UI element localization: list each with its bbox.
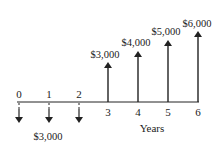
period-label-5: 5 — [165, 106, 171, 118]
inflow-label-3: $3,000 — [91, 49, 120, 60]
inflow-label-5: $5,000 — [152, 26, 181, 37]
period-label-6: 6 — [195, 106, 201, 118]
axis-label-years: Years — [140, 122, 165, 134]
outflow-amount-label: $3,000 — [34, 131, 63, 142]
cash-flow-diagram: 0 1 2 3 4 5 6 $3,000 $3,000 $4,000 $5,00… — [0, 0, 217, 146]
period-label-3: 3 — [105, 106, 111, 118]
inflow-label-4: $4,000 — [122, 37, 151, 48]
period-label-2: 2 — [76, 88, 82, 100]
period-label-0: 0 — [16, 88, 22, 100]
period-label-4: 4 — [135, 106, 141, 118]
inflow-label-6: $6,000 — [183, 18, 212, 29]
period-label-1: 1 — [46, 88, 52, 100]
